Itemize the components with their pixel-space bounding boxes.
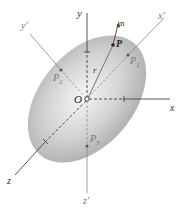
y-axis-label: y — [77, 8, 82, 19]
P1-subscript: 1 — [136, 61, 140, 69]
x-axis-label: x — [170, 103, 174, 113]
P2-label: P2 — [53, 73, 63, 86]
P3-label: P3 — [90, 134, 100, 147]
point-P2 — [60, 69, 63, 72]
z-prime-axis-label: z' — [83, 196, 89, 206]
point-P3 — [86, 145, 89, 148]
r-label: r — [93, 66, 97, 75]
origin-point — [85, 97, 89, 101]
point-P — [111, 43, 115, 47]
ellipsoid-diagram — [0, 0, 188, 210]
y-prime-axis — [30, 34, 61, 70]
n-label: n — [120, 19, 125, 28]
x-prime-axis — [128, 18, 164, 55]
P2-subscript: 2 — [59, 78, 63, 86]
P-label: P — [116, 39, 122, 49]
P1-label: P1 — [130, 56, 140, 69]
z-axis-label: z — [7, 176, 11, 186]
origin-label: O — [74, 94, 82, 105]
z-axis — [15, 141, 46, 175]
P3-subscript: 3 — [96, 139, 100, 147]
y-prime-axis-label: y' — [21, 21, 28, 31]
x-prime-axis-label: x' — [158, 11, 165, 21]
